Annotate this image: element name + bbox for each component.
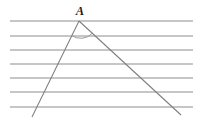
angle-rays-group [32, 21, 181, 117]
parallel-lines-group [10, 21, 193, 107]
vertex-label-a: A [75, 4, 84, 18]
right-ray [79, 21, 181, 115]
geometry-figure-canvas: A [0, 0, 203, 122]
geometry-diagram: A [0, 0, 203, 122]
